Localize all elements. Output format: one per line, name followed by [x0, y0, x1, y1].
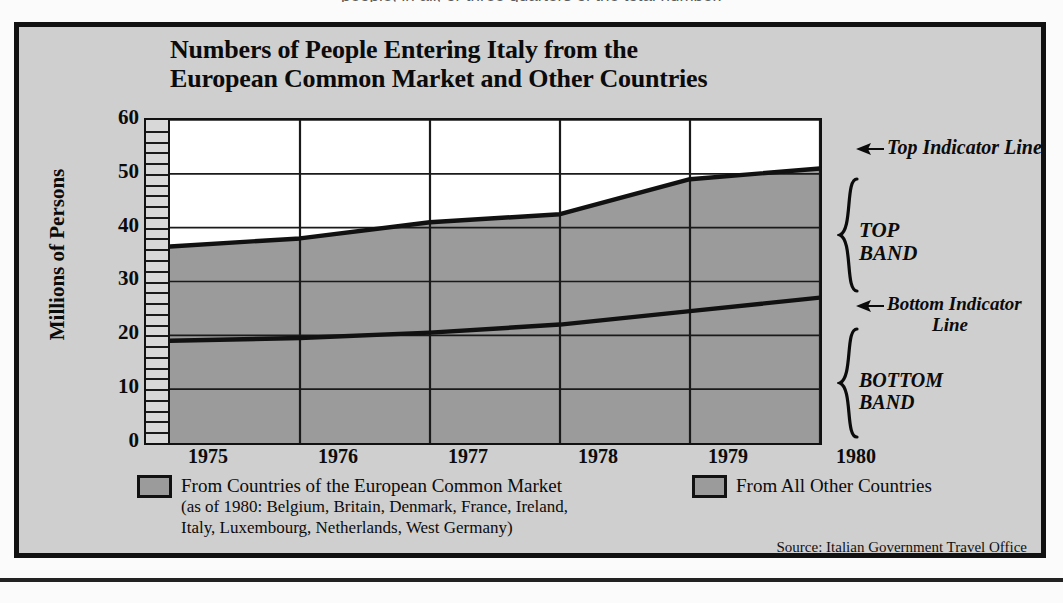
arrow-left-icon — [855, 142, 885, 156]
x-tick-label: 1980 — [816, 445, 896, 468]
y-minor-tick — [146, 432, 168, 434]
y-minor-tick — [146, 152, 168, 154]
annotation-bottom-indicator-line-label2: Line — [855, 314, 1045, 335]
source-note: Source: Italian Government Travel Office — [777, 539, 1028, 556]
y-minor-tick — [146, 303, 168, 305]
annotation-top-band: TOP BAND — [859, 219, 969, 264]
x-tick-label: 1977 — [428, 445, 508, 468]
y-minor-tick — [146, 271, 168, 273]
page-bottom-rule — [0, 578, 1063, 582]
y-minor-tick — [146, 174, 168, 176]
chart-title-line2: European Common Market and Other Countri… — [170, 64, 870, 93]
y-minor-tick — [146, 335, 168, 337]
legend-label: From All Other Countries — [736, 475, 932, 496]
annotation-top-indicator-line-label: Top Indicator Line — [887, 136, 1042, 158]
y-minor-tick — [146, 368, 168, 370]
brace-bottom-band-icon — [837, 327, 863, 439]
plot-inner — [170, 120, 820, 443]
y-minor-tick — [146, 195, 168, 197]
chart-svg — [170, 120, 820, 443]
y-minor-tick — [146, 389, 168, 391]
annotation-top-band-line2: BAND — [859, 241, 917, 265]
annotation-top-indicator-line: Top Indicator Line — [855, 136, 1042, 159]
legend-label: From Countries of the European Common Ma… — [181, 475, 562, 496]
y-tick-label: 10 — [93, 374, 139, 399]
annotation-bottom-band-line1: BOTTOM — [859, 369, 943, 391]
plot-area — [168, 118, 822, 445]
y-minor-tick — [146, 142, 168, 144]
y-minor-tick — [146, 131, 168, 133]
chart-title-line1: Numbers of People Entering Italy from th… — [170, 35, 638, 64]
y-axis-tick-labels: 0 10 20 30 40 50 60 — [93, 118, 139, 441]
page-top-cut-text: people, in all, or three quarters of the… — [0, 0, 1063, 2]
annotation-bottom-band-line2: BAND — [859, 391, 915, 413]
y-tick-label: 30 — [93, 266, 139, 291]
y-minor-tick — [146, 228, 168, 230]
x-tick-label: 1975 — [168, 445, 248, 468]
y-minor-tick — [146, 357, 168, 359]
y-minor-tick — [146, 400, 168, 402]
y-axis-title: Millions of Persons — [45, 125, 70, 385]
annotation-bottom-band: BOTTOM BAND — [859, 370, 994, 413]
y-minor-tick — [146, 206, 168, 208]
x-tick-label: 1979 — [688, 445, 768, 468]
y-minor-tick — [146, 249, 168, 251]
annotation-bottom-indicator-line-label1: Bottom Indicator — [887, 293, 1022, 314]
y-axis-minor-tick-ladder — [144, 118, 170, 445]
y-tick-label: 60 — [93, 105, 139, 130]
y-minor-tick — [146, 282, 168, 284]
legend-item-other-countries[interactable]: From All Other Countries — [692, 474, 1022, 498]
y-minor-tick — [146, 185, 168, 187]
legend-swatch-icon — [692, 475, 727, 498]
annotation-top-band-line1: TOP — [859, 218, 899, 242]
y-tick-label: 0 — [93, 428, 139, 453]
legend-item-common-market[interactable]: From Countries of the European Common Ma… — [137, 474, 657, 539]
y-minor-tick — [146, 325, 168, 327]
legend-sublabel-line1: (as of 1980: Belgium, Britain, Denmark, … — [181, 497, 568, 518]
brace-top-band-icon — [837, 177, 863, 293]
y-minor-tick — [146, 163, 168, 165]
y-minor-tick — [146, 378, 168, 380]
y-minor-tick — [146, 292, 168, 294]
arrow-left-icon — [855, 299, 885, 313]
chart-legend: From Countries of the European Common Ma… — [137, 474, 1017, 546]
y-minor-tick — [146, 411, 168, 413]
y-minor-tick — [146, 314, 168, 316]
y-tick-label: 20 — [93, 320, 139, 345]
annotation-bottom-indicator-line: Bottom Indicator Line — [855, 293, 1045, 336]
chart-figure-box: Numbers of People Entering Italy from th… — [14, 22, 1046, 558]
y-minor-tick — [146, 260, 168, 262]
legend-swatch-icon — [137, 475, 172, 498]
y-tick-label: 50 — [93, 159, 139, 184]
y-minor-tick — [146, 217, 168, 219]
x-tick-label: 1976 — [298, 445, 378, 468]
chart-title: Numbers of People Entering Italy from th… — [170, 35, 870, 93]
y-minor-tick — [146, 421, 168, 423]
y-tick-label: 40 — [93, 213, 139, 238]
x-axis-tick-labels: 1975 1976 1977 1978 1979 1980 — [168, 445, 822, 475]
y-minor-tick — [146, 346, 168, 348]
x-tick-label: 1978 — [558, 445, 638, 468]
legend-sublabel-line2: Italy, Luxembourg, Netherlands, West Ger… — [181, 518, 568, 539]
y-minor-tick — [146, 238, 168, 240]
